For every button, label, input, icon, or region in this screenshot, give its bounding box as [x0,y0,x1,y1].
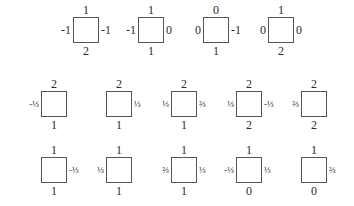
square-label-right: ⅓ [264,165,271,175]
square-label-top: 1 [246,144,252,156]
square-label-top: 2 [246,78,252,90]
square-label-left: ⅓ [162,99,169,109]
square-label-top: 0 [213,4,219,16]
square-label-bottom: 2 [246,119,252,131]
square-cell [73,17,99,43]
square-label-bottom: 1 [116,185,122,197]
square-label-top: 1 [83,4,89,16]
square-label-right: -1 [101,24,111,36]
square-label-left: ⅔ [162,165,169,175]
square-label-left: -1 [61,24,71,36]
square-label-right: ⅓ [199,165,206,175]
square-label-top: 2 [311,78,317,90]
square-label-top: 1 [51,144,57,156]
square-label-top: 2 [51,78,57,90]
square-label-right: -1 [231,24,241,36]
square-label-left: -⅓ [224,165,234,175]
square-label-right: ⅔ [199,99,206,109]
square-label-top: 1 [181,144,187,156]
square-cell [203,17,229,43]
square-label-top: 1 [116,144,122,156]
square-cell [171,157,197,183]
square-label-left: -1 [126,24,136,36]
square-label-right: -⅓ [69,165,79,175]
square-cell [236,91,262,117]
square-label-bottom: 2 [83,45,89,57]
square-label-left: 0 [195,24,201,36]
square-cell [301,91,327,117]
square-label-right: 0 [166,24,172,36]
square-cell [236,157,262,183]
square-label-left: ⅔ [292,99,299,109]
square-label-right: ⅔ [329,165,336,175]
square-cell [106,157,132,183]
square-label-left: ⅓ [97,165,104,175]
square-cell [171,91,197,117]
square-label-top: 1 [148,4,154,16]
square-label-bottom: 1 [51,119,57,131]
square-cell [268,17,294,43]
square-label-top: 1 [278,4,284,16]
square-cell [106,91,132,117]
square-label-bottom: 1 [116,119,122,131]
square-label-bottom: 2 [311,119,317,131]
square-label-right: -⅓ [264,99,274,109]
square-label-top: 2 [116,78,122,90]
square-label-right: ⅓ [134,99,141,109]
square-label-bottom: 1 [213,45,219,57]
square-label-bottom: 1 [148,45,154,57]
square-label-bottom: 0 [246,185,252,197]
square-label-bottom: 1 [181,119,187,131]
square-label-bottom: 1 [181,185,187,197]
square-label-left: 0 [260,24,266,36]
square-cell [138,17,164,43]
square-label-left: -⅓ [29,99,39,109]
square-label-right: 0 [296,24,302,36]
square-label-top: 2 [181,78,187,90]
square-label-left: ⅓ [227,99,234,109]
square-label-bottom: 1 [51,185,57,197]
square-cell [301,157,327,183]
square-label-bottom: 0 [311,185,317,197]
square-label-top: 1 [311,144,317,156]
square-cell [41,91,67,117]
square-label-bottom: 2 [278,45,284,57]
square-cell [41,157,67,183]
